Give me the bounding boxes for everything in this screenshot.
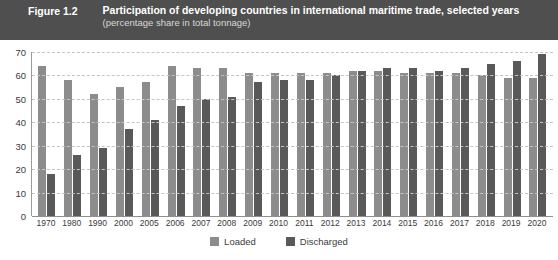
- x-axis-tick-label: 2017: [447, 218, 473, 234]
- x-axis-tick-label: 2012: [317, 218, 343, 234]
- x-axis-tick-label: 2000: [111, 218, 137, 234]
- bar-loaded-2012: [323, 73, 331, 216]
- bar-discharged-2015: [409, 68, 417, 216]
- axis-baseline: [32, 216, 553, 217]
- bar-discharged-2008: [228, 97, 236, 216]
- y-axis-tick-label: 20: [15, 164, 26, 175]
- bar-discharged-1980: [73, 155, 81, 216]
- figure-number-label: Figure 1.2: [28, 4, 78, 17]
- bar-loaded-1980: [64, 80, 72, 216]
- bar-discharged-2013: [358, 71, 366, 216]
- bar-loaded-2015: [400, 73, 408, 216]
- bar-group: [396, 52, 422, 216]
- bar-group: [60, 52, 86, 216]
- bar-discharged-1990: [99, 148, 107, 216]
- y-axis-tick-label: 10: [15, 187, 26, 198]
- bar-loaded-2017: [452, 73, 460, 216]
- bar-loaded-2016: [426, 73, 434, 216]
- figure-header-band: Figure 1.2 Participation of developing c…: [0, 0, 558, 40]
- legend-label: Discharged: [300, 236, 348, 247]
- x-axis-tick-label: 2005: [136, 218, 162, 234]
- x-axis-tick-label: 2019: [498, 218, 524, 234]
- gridline: [32, 169, 553, 170]
- legend-item-loaded[interactable]: Loaded: [210, 236, 256, 247]
- gridline: [32, 99, 553, 100]
- x-axis-tick-label: 2015: [395, 218, 421, 234]
- x-axis-tick-label: 2006: [162, 218, 188, 234]
- x-axis-tick-label: 2013: [343, 218, 369, 234]
- bar-discharged-2009: [254, 82, 262, 216]
- legend-item-discharged[interactable]: Discharged: [286, 236, 348, 247]
- plot-wrapper: 010203040506070 197019801990200020052006…: [0, 40, 558, 260]
- bar-loaded-2010: [271, 73, 279, 216]
- bar-loaded-2008: [219, 68, 227, 216]
- x-axis: 1970198019902000200520062007200820092010…: [31, 218, 552, 234]
- bar-loaded-2000: [116, 87, 124, 216]
- gridline: [32, 52, 553, 53]
- bar-loaded-1990: [90, 94, 98, 216]
- bar-loaded-2007: [193, 68, 201, 216]
- bar-discharged-2000: [125, 129, 133, 216]
- x-axis-tick-label: 2020: [524, 218, 550, 234]
- bar-loaded-2009: [245, 73, 253, 216]
- bar-discharged-2017: [461, 68, 469, 216]
- bar-group: [112, 52, 138, 216]
- gridline: [32, 193, 553, 194]
- x-axis-tick-label: 2011: [291, 218, 317, 234]
- bar-discharged-2007: [202, 99, 210, 216]
- x-axis-tick-label: 1970: [33, 218, 59, 234]
- bar-group: [344, 52, 370, 216]
- bar-discharged-2011: [306, 80, 314, 216]
- bar-loaded-2014: [374, 71, 382, 216]
- bar-group: [267, 52, 293, 216]
- x-axis-tick-label: 2007: [188, 218, 214, 234]
- bar-group: [34, 52, 60, 216]
- gridline: [32, 146, 553, 147]
- gridline: [32, 75, 553, 76]
- bar-group: [163, 52, 189, 216]
- bar-group: [86, 52, 112, 216]
- bar-loaded-2011: [297, 73, 305, 216]
- bar-groups: [32, 52, 553, 216]
- chart-legend: LoadedDischarged: [0, 236, 558, 247]
- bar-discharged-2016: [435, 71, 443, 216]
- bar-group: [137, 52, 163, 216]
- bar-group: [499, 52, 525, 216]
- y-axis-tick-label: 50: [15, 93, 26, 104]
- legend-label: Loaded: [224, 236, 256, 247]
- legend-swatch-icon: [210, 237, 219, 246]
- figure-title: Participation of developing countries in…: [103, 4, 548, 17]
- y-axis-tick-label: 30: [15, 140, 26, 151]
- x-axis-tick-label: 2010: [266, 218, 292, 234]
- bar-discharged-2014: [383, 68, 391, 216]
- x-axis-tick-label: 2016: [421, 218, 447, 234]
- bar-group: [318, 52, 344, 216]
- y-axis-tick-label: 60: [15, 70, 26, 81]
- bar-discharged-2005: [151, 120, 159, 216]
- bar-group: [189, 52, 215, 216]
- bar-group: [473, 52, 499, 216]
- x-axis-tick-label: 2009: [240, 218, 266, 234]
- figure-container: Figure 1.2 Participation of developing c…: [0, 0, 558, 260]
- plot-area: [31, 52, 553, 216]
- bar-group: [370, 52, 396, 216]
- legend-swatch-icon: [286, 237, 295, 246]
- bar-loaded-2005: [142, 82, 150, 216]
- bar-group: [525, 52, 551, 216]
- bar-group: [241, 52, 267, 216]
- y-axis-tick-label: 0: [21, 211, 26, 222]
- x-axis-tick-label: 1980: [59, 218, 85, 234]
- title-block: Participation of developing countries in…: [103, 4, 548, 29]
- bar-loaded-2013: [349, 71, 357, 216]
- y-axis: 010203040506070: [0, 40, 30, 260]
- bar-discharged-1970: [47, 174, 55, 216]
- figure-subtitle: (percentage share in total tonnage): [103, 17, 548, 29]
- y-axis-tick-label: 40: [15, 117, 26, 128]
- x-axis-tick-label: 2018: [472, 218, 498, 234]
- y-axis-tick-label: 70: [15, 47, 26, 58]
- bar-discharged-2010: [280, 80, 288, 216]
- header-row: Figure 1.2 Participation of developing c…: [28, 4, 548, 29]
- gridline: [32, 122, 553, 123]
- bar-group: [292, 52, 318, 216]
- bar-group: [422, 52, 448, 216]
